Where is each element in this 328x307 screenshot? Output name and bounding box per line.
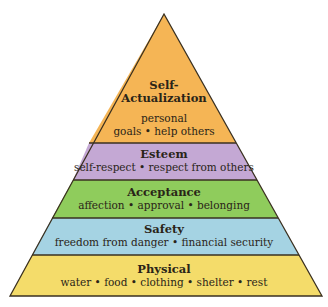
layer-safety: Safety freedom from danger • financial s… xyxy=(0,223,328,249)
layer-esteem: Esteem self-respect • respect from other… xyxy=(0,148,328,174)
layer-physical: Physical water • food • clothing • shelt… xyxy=(0,263,328,289)
layer-subtitle: water • food • clothing • shelter • rest xyxy=(0,276,328,289)
layer-subtitle: affection • approval • belonging xyxy=(0,199,328,212)
layer-subtitle: self-respect • respect from others xyxy=(0,161,328,174)
layer-self-actualization: Self- Actualization personal goals • hel… xyxy=(0,79,328,138)
layer-acceptance: Acceptance affection • approval • belong… xyxy=(0,186,328,212)
layer-title: Physical xyxy=(0,263,328,276)
layer-subtitle: personal xyxy=(0,112,328,125)
layer-title: Acceptance xyxy=(0,186,328,199)
layer-title: Esteem xyxy=(0,148,328,161)
layer-subtitle: freedom from danger • financial security xyxy=(0,236,328,249)
layer-title: Safety xyxy=(0,223,328,236)
layer-title: Actualization xyxy=(0,92,328,105)
layer-subtitle: goals • help others xyxy=(0,125,328,138)
